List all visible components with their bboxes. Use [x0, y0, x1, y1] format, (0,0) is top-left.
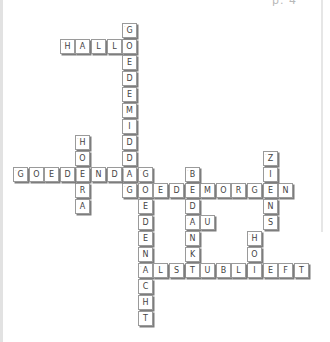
crossword-cell[interactable]: R	[231, 183, 246, 198]
cell-letter: G	[126, 186, 132, 195]
cell-letter: A	[80, 202, 85, 211]
cell-letter: O	[251, 250, 257, 259]
crossword-cell[interactable]: O	[122, 39, 137, 54]
crossword-cell[interactable]: I	[263, 167, 278, 182]
crossword-cell[interactable]: H·	[247, 231, 262, 246]
cell-letter: D	[126, 74, 132, 83]
cell-letter: T	[190, 266, 195, 275]
crossword-cell[interactable]: N	[138, 247, 153, 262]
cell-letter: S	[268, 218, 273, 227]
crossword-cell[interactable]: T	[138, 311, 153, 326]
crossword-cell[interactable]: G·	[138, 167, 153, 182]
crossword-cell[interactable]: E	[263, 263, 278, 278]
cell-letter: E	[143, 234, 148, 243]
crossword-cell[interactable]: D	[122, 135, 137, 150]
cell-letter: D	[111, 170, 117, 179]
crossword-cell[interactable]: U	[200, 215, 215, 230]
cell-letter: D	[126, 154, 132, 163]
clue-number-marker: ·	[249, 231, 251, 237]
cell-letter: H	[142, 298, 148, 307]
cell-letter: N	[190, 234, 196, 243]
crossword-cell[interactable]: N	[185, 231, 200, 246]
cell-letter: R	[236, 186, 242, 195]
cell-letter: D	[189, 202, 195, 211]
clue-number-marker: ·	[124, 183, 126, 189]
cell-letter: A	[190, 218, 195, 227]
clue-number-marker: ·	[15, 167, 17, 173]
crossword-cell[interactable]: N	[91, 167, 106, 182]
crossword-cell[interactable]: Z·	[263, 151, 278, 166]
crossword-cell[interactable]: A	[75, 39, 90, 54]
crossword-cell[interactable]: H·	[60, 39, 75, 54]
crossword-cell[interactable]: F	[278, 263, 293, 278]
crossword-cell[interactable]: C	[138, 279, 153, 294]
cell-letter: A	[127, 170, 132, 179]
crossword-cell[interactable]: A·	[185, 215, 200, 230]
crossword-cell[interactable]: O	[216, 183, 231, 198]
crossword-cell[interactable]: A·	[138, 263, 153, 278]
crossword-cell[interactable]: I	[247, 263, 262, 278]
crossword-cell[interactable]: S	[263, 215, 278, 230]
cell-letter: L	[236, 266, 240, 275]
crossword-cell[interactable]: N	[278, 183, 293, 198]
crossword-cell[interactable]: O	[247, 247, 262, 262]
crossword-cell[interactable]: E	[44, 167, 59, 182]
crossword-cell[interactable]: D	[138, 215, 153, 230]
crossword-cell[interactable]: B·	[185, 167, 200, 182]
cell-letter: D	[64, 170, 70, 179]
crossword-cell[interactable]: T	[185, 263, 200, 278]
cell-letter: E	[127, 58, 132, 67]
crossword-cell[interactable]: A	[75, 199, 90, 214]
cell-letter: G	[17, 170, 23, 179]
cell-letter: B	[221, 266, 227, 275]
crossword-cell[interactable]: O	[29, 167, 44, 182]
crossword-cell[interactable]: D	[107, 167, 122, 182]
crossword-cell[interactable]: E	[263, 183, 278, 198]
cell-letter: E	[268, 266, 273, 275]
cell-letter: E	[268, 186, 273, 195]
crossword-cell[interactable]: R	[75, 183, 90, 198]
crossword-cell[interactable]: G·	[13, 167, 28, 182]
cell-letter: D	[173, 186, 179, 195]
crossword-cell[interactable]: D	[185, 199, 200, 214]
crossword-cell[interactable]: L	[107, 39, 122, 54]
crossword-cell[interactable]: E	[122, 87, 137, 102]
crossword-cell[interactable]: M	[122, 103, 137, 118]
crossword-cell[interactable]: S	[169, 263, 184, 278]
crossword-cell[interactable]: N	[263, 199, 278, 214]
crossword-cell[interactable]: D	[60, 167, 75, 182]
crossword-cell[interactable]: G·	[122, 183, 137, 198]
cell-letter: O	[33, 170, 39, 179]
clue-number-marker: ·	[140, 167, 142, 173]
crossword-cell[interactable]: O	[75, 151, 90, 166]
crossword-cell[interactable]: M	[200, 183, 215, 198]
crossword-cell[interactable]: D	[122, 71, 137, 86]
crossword-cell[interactable]: E	[75, 167, 90, 182]
crossword-cell[interactable]: A	[122, 167, 137, 182]
crossword-cell[interactable]: U	[200, 263, 215, 278]
crossword-cell[interactable]: E	[153, 183, 168, 198]
cell-letter: C	[143, 282, 149, 291]
crossword-cell[interactable]: H·	[75, 135, 90, 150]
crossword-cell[interactable]: G·	[122, 23, 137, 38]
crossword-cell[interactable]: E	[185, 183, 200, 198]
crossword-cell[interactable]: K	[185, 247, 200, 262]
crossword-cell[interactable]: I	[122, 119, 137, 134]
crossword-cell[interactable]: H	[138, 295, 153, 310]
cell-letter: H	[79, 138, 85, 147]
crossword-cell[interactable]: L	[153, 263, 168, 278]
cell-letter: E	[127, 90, 132, 99]
cell-letter: Z	[268, 154, 273, 163]
crossword-cell[interactable]: B	[216, 263, 231, 278]
crossword-cell[interactable]: E	[138, 231, 153, 246]
crossword-cell[interactable]: L	[231, 263, 246, 278]
crossword-cell[interactable]: E	[138, 199, 153, 214]
crossword-cell[interactable]: D	[122, 151, 137, 166]
crossword-cell[interactable]: T	[294, 263, 309, 278]
crossword-cell[interactable]: D	[169, 183, 184, 198]
cell-letter: U	[205, 266, 211, 275]
crossword-cell[interactable]: G	[247, 183, 262, 198]
crossword-cell[interactable]: L	[91, 39, 106, 54]
crossword-cell[interactable]: E	[122, 55, 137, 70]
crossword-cell[interactable]: O	[138, 183, 153, 198]
